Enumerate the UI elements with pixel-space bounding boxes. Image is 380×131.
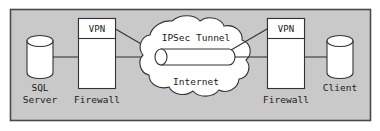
sql-server-label-line2: Server: [23, 94, 58, 105]
diagram-canvas: SQL Server VPN Firewall IPSec Tunnel Int…: [0, 0, 380, 131]
node-client: Client: [323, 36, 357, 93]
internet-label: Internet: [173, 76, 219, 87]
ipsec-tunnel-label: IPSec Tunnel: [162, 32, 231, 43]
firewall-right-label: Firewall: [263, 94, 309, 105]
node-sql-server: SQL Server: [23, 36, 58, 105]
node-internet-cloud: IPSec Tunnel Internet: [140, 16, 250, 96]
ipsec-tunnel-cylinder-body: [161, 49, 235, 65]
sql-server-label-line1: SQL: [31, 82, 48, 93]
sql-server-cylinder-top: [27, 36, 53, 47]
ipsec-tunnel-cylinder-cap: [155, 49, 167, 65]
client-cylinder-top: [327, 36, 353, 47]
network-diagram: SQL Server VPN Firewall IPSec Tunnel Int…: [0, 0, 380, 131]
client-label: Client: [323, 82, 357, 93]
firewall-left-label: Firewall: [74, 94, 120, 105]
firewall-left-vpn-label: VPN: [89, 24, 105, 34]
firewall-right-vpn-label: VPN: [278, 24, 294, 34]
